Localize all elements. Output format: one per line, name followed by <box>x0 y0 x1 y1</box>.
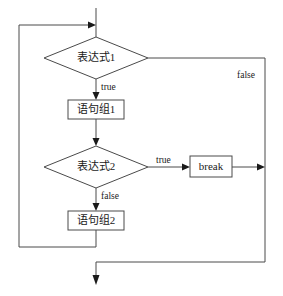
flowchart-canvas: 表达式1 语句组1 表达式2 break 语句组2 true false tru… <box>0 0 283 296</box>
arrowhead-exit <box>93 275 100 285</box>
process-node-statements2-label: 语句组2 <box>77 213 116 226</box>
edge-rail-to-exit <box>96 262 265 277</box>
process-node-break-label: break <box>199 160 224 172</box>
edge-label-false-decision1: false <box>237 70 255 80</box>
arrowhead-decision2-false <box>93 203 100 211</box>
process-node-statements1-label: 语句组1 <box>77 102 116 115</box>
arrowhead-decision1-true <box>93 92 100 100</box>
edge-label-false-decision2: false <box>101 191 119 201</box>
flowchart-svg: 表达式1 语句组1 表达式2 break 语句组2 true false tru… <box>0 0 283 296</box>
arrowhead-process1 <box>93 138 100 146</box>
arrowhead-break-to-rail <box>257 164 265 171</box>
decision-node-expression2-label: 表达式2 <box>77 159 116 172</box>
edge-label-true-decision1: true <box>101 82 116 92</box>
arrowhead-decision2-true <box>182 164 190 171</box>
edge-label-true-decision2: true <box>156 155 171 165</box>
decision-node-expression1-label: 表达式1 <box>77 50 116 63</box>
arrowhead-loopback <box>88 22 96 29</box>
